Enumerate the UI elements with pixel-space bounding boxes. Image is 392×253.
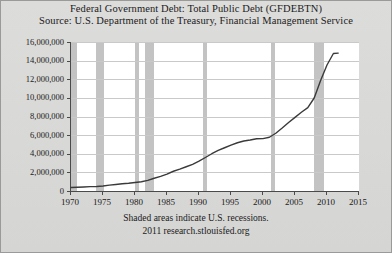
chart-subtitle: Source: U.S. Department of the Treasury,… bbox=[1, 15, 391, 27]
plot-area bbox=[70, 42, 359, 192]
y-tick-label-7: 14,000,000 bbox=[1, 56, 64, 65]
line-total-public-debt bbox=[71, 53, 338, 187]
recession-note: Shaded areas indicate U.S. recessions. bbox=[1, 213, 391, 224]
source-note: 2011 research.stlouisfed.org bbox=[1, 226, 391, 237]
y-tick-label-4: 8,000,000 bbox=[1, 112, 64, 121]
y-tick-label-0: 0 bbox=[1, 187, 64, 196]
chart-figure: Federal Government Debt: Total Public De… bbox=[0, 0, 392, 253]
y-tick-label-2: 4,000,000 bbox=[1, 149, 64, 158]
y-tick-label-5: 10,000,000 bbox=[1, 93, 64, 102]
debt-line-series bbox=[71, 42, 359, 191]
y-tick-label-8: 16,000,000 bbox=[1, 38, 64, 47]
chart-title: Federal Government Debt: Total Public De… bbox=[1, 3, 391, 15]
x-tick-label-9: 2015 bbox=[338, 197, 378, 207]
y-tick-label-1: 2,000,000 bbox=[1, 168, 64, 177]
y-tick-label-3: 6,000,000 bbox=[1, 131, 64, 140]
y-tick-label-6: 12,000,000 bbox=[1, 75, 64, 84]
